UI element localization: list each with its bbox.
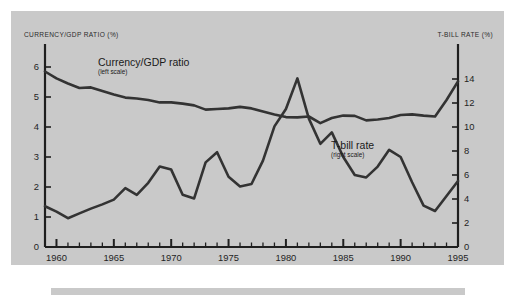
left-axis-tick-label: 2	[23, 181, 39, 192]
tbill-rate-line	[45, 78, 458, 218]
x-axis-tick-label: 1980	[269, 252, 303, 263]
currency-gdp-ratio-line	[45, 72, 458, 124]
tbill-series-annotation: T-bill rate (right scale)	[331, 139, 374, 159]
data-series	[45, 72, 458, 219]
tbill-series-name: T-bill rate	[331, 139, 374, 151]
left-axis-tick-label: 4	[23, 121, 39, 132]
right-axis-tick-label: 6	[464, 169, 482, 180]
right-axis-tick-label: 14	[464, 73, 482, 84]
left-axis-tick-label: 3	[23, 151, 39, 162]
chart-plot-area	[0, 0, 515, 297]
x-axis-tick-label: 1975	[212, 252, 246, 263]
left-axis-tick-label: 0	[23, 241, 39, 252]
right-axis-tick-label: 0	[464, 241, 482, 252]
x-axis-tick-label: 1985	[326, 252, 360, 263]
currency-series-name: Currency/GDP ratio	[98, 56, 189, 68]
currency-series-scale: (left scale)	[98, 68, 189, 76]
currency-series-annotation: Currency/GDP ratio (left scale)	[98, 56, 189, 76]
left-axis-tick-label: 5	[23, 91, 39, 102]
x-axis-tick-label: 1965	[97, 252, 131, 263]
axis-ticks	[45, 67, 458, 247]
footer-separator-bar	[51, 288, 465, 295]
left-axis-tick-label: 1	[23, 211, 39, 222]
x-axis-tick-label: 1960	[39, 252, 73, 263]
x-axis-tick-label: 1990	[384, 252, 418, 263]
right-axis-tick-label: 8	[464, 145, 482, 156]
figure-container: CURRENCY/GDP RATIO (%) T-BILL RATE (%) C…	[0, 0, 515, 297]
right-axis-tick-label: 12	[464, 97, 482, 108]
x-axis-tick-label: 1970	[154, 252, 188, 263]
right-axis-tick-label: 2	[464, 217, 482, 228]
right-axis-tick-label: 4	[464, 193, 482, 204]
x-axis-tick-label: 1995	[441, 252, 475, 263]
tbill-series-scale: (right scale)	[331, 151, 374, 159]
right-axis-tick-label: 10	[464, 121, 482, 132]
left-axis-tick-label: 6	[23, 61, 39, 72]
